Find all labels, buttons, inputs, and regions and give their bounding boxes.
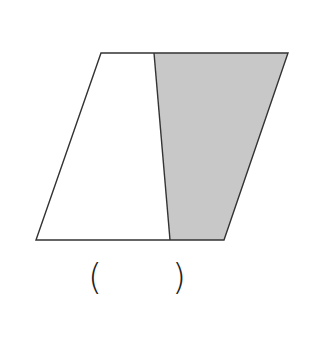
unshaded-trapezoid [36, 53, 170, 240]
answer-blank[interactable] [104, 262, 172, 296]
answer-open-paren: ( [88, 259, 102, 295]
shaded-trapezoid [154, 53, 288, 240]
answer-close-paren: ) [172, 259, 186, 295]
